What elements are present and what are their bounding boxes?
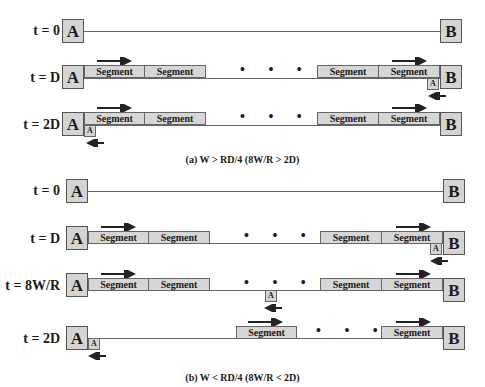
segment: Segment — [317, 112, 379, 125]
link-line — [84, 78, 440, 79]
left-arrow-icon — [428, 257, 448, 265]
ellipsis: • • • — [244, 278, 316, 288]
node-a: A — [66, 273, 88, 297]
node-a: A — [62, 65, 84, 89]
panel-a-caption: (a) W > RD/4 (8W/R > 2D) — [0, 154, 485, 165]
panel-b-caption: (b) W < RD/4 (8W/R < 2D) — [0, 372, 485, 383]
node-b: B — [440, 19, 462, 43]
segment: Segment — [378, 112, 440, 125]
left-arrow-icon — [84, 139, 104, 147]
time-label: t = 2D — [0, 117, 60, 133]
time-label: t = D — [0, 231, 60, 247]
right-arrow-icon — [396, 270, 434, 278]
node-a: A — [62, 19, 84, 43]
ellipsis: • • • — [316, 326, 388, 336]
segment: Segment — [144, 65, 206, 78]
right-arrow-icon — [396, 223, 434, 231]
right-arrow-icon — [392, 104, 430, 112]
segment: Segment — [236, 326, 297, 339]
segment: Segment — [84, 65, 145, 78]
segment: Segment — [88, 278, 149, 291]
segment: Segment — [88, 231, 149, 244]
time-label: t = 0 — [0, 183, 60, 199]
ack-box: A — [88, 338, 100, 350]
ack-box: A — [430, 243, 442, 255]
segment: Segment — [144, 112, 206, 125]
segment: Segment — [320, 278, 382, 291]
ellipsis: • • • — [240, 65, 312, 75]
ellipsis: • • • — [240, 112, 312, 122]
segment: Segment — [378, 65, 440, 78]
node-b: B — [443, 231, 465, 255]
segment: Segment — [381, 278, 443, 291]
segment: Segment — [84, 112, 145, 125]
segment: Segment — [381, 326, 443, 339]
ack-box: A — [427, 78, 439, 90]
node-a: A — [66, 326, 88, 350]
node-b: B — [443, 326, 465, 350]
ellipsis: • • • — [244, 231, 316, 241]
left-arrow-icon — [262, 304, 282, 312]
time-label: t = 8W/R — [0, 278, 60, 294]
node-a: A — [62, 112, 84, 136]
right-arrow-icon — [97, 104, 135, 112]
time-label: t = D — [0, 70, 60, 86]
time-label: t = 0 — [0, 23, 60, 39]
node-b: B — [440, 65, 462, 89]
segment: Segment — [148, 231, 210, 244]
right-arrow-icon — [97, 57, 135, 65]
node-a: A — [66, 179, 88, 203]
segment: Segment — [317, 65, 379, 78]
node-b: B — [440, 112, 462, 136]
link-line — [88, 191, 443, 192]
right-arrow-icon — [396, 318, 434, 326]
right-arrow-icon — [101, 270, 139, 278]
left-arrow-icon — [86, 352, 106, 360]
segment: Segment — [148, 278, 210, 291]
right-arrow-icon — [392, 57, 430, 65]
right-arrow-icon — [101, 223, 139, 231]
left-arrow-icon — [426, 92, 446, 100]
time-label: t = 2D — [0, 331, 60, 347]
node-b: B — [443, 179, 465, 203]
right-arrow-icon — [248, 318, 286, 326]
node-b: B — [443, 278, 465, 302]
ack-box: A — [84, 125, 96, 137]
ack-box: A — [265, 290, 277, 302]
node-a: A — [66, 226, 88, 250]
segment: Segment — [320, 231, 382, 244]
link-line — [84, 31, 440, 32]
link-line — [84, 125, 440, 126]
